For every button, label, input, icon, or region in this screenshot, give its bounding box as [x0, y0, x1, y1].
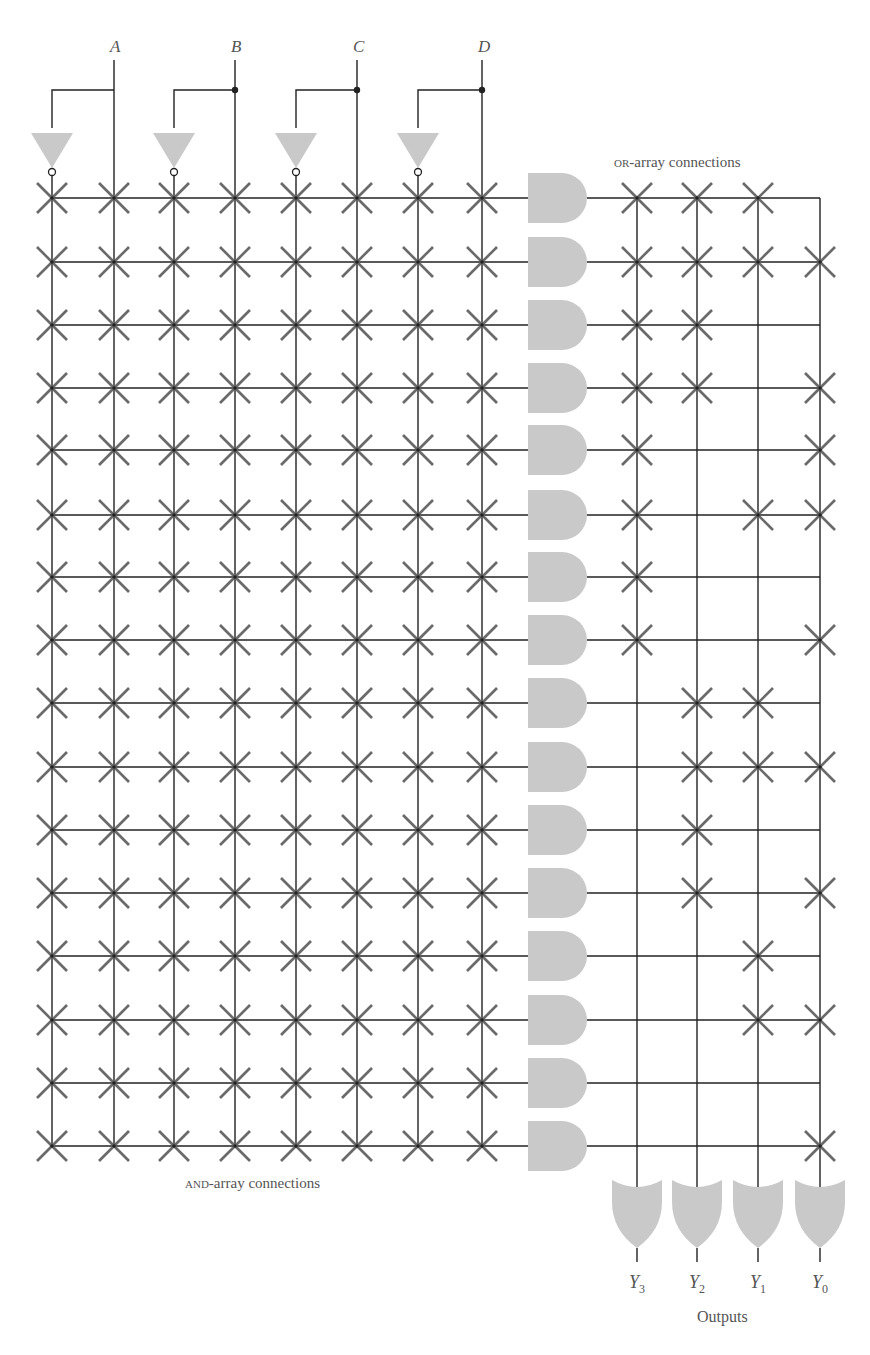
and-gate-icon: [528, 931, 587, 981]
inverter-icon: [275, 133, 317, 168]
and-gate-icon: [528, 237, 587, 287]
and-gate-icon: [528, 995, 587, 1045]
output-label: Y3: [629, 1272, 645, 1296]
and-gate-icon: [528, 678, 587, 728]
and-gate-icon: [528, 363, 587, 413]
or-array-label: OR-array connections: [614, 154, 741, 170]
output-y1: Y1: [733, 1180, 783, 1296]
outputs-label: Outputs: [697, 1308, 748, 1326]
output-label: Y0: [812, 1272, 828, 1296]
input-label-b: B: [231, 37, 242, 56]
input-label-c: C: [353, 37, 365, 56]
and-gate-icon: [528, 552, 587, 602]
junction-dot: [232, 87, 238, 93]
and-gate-icon: [528, 300, 587, 350]
or-gate-icon: [795, 1180, 845, 1248]
and-gate-icon: [528, 868, 587, 918]
pla-diagram: ABCD Y3Y2Y1Y0 OR-array connections AND-a…: [0, 0, 870, 1355]
or-gates: Y3Y2Y1Y0: [612, 1180, 845, 1296]
or-gate-icon: [612, 1180, 662, 1248]
output-y2: Y2: [672, 1180, 722, 1296]
and-gate-icon: [528, 1058, 587, 1108]
and-array-grid: [37, 183, 528, 1161]
output-label: Y2: [689, 1272, 705, 1296]
and-gate-icon: [528, 425, 587, 475]
input-label-a: A: [109, 37, 121, 56]
or-array-grid: [622, 183, 835, 1195]
inversion-bubble: [293, 169, 300, 176]
output-y0: Y0: [795, 1180, 845, 1296]
inverter-icon: [397, 133, 439, 168]
or-gate-icon: [733, 1180, 783, 1248]
and-gate-icon: [528, 615, 587, 665]
input-label-d: D: [477, 37, 491, 56]
and-gate-icon: [528, 173, 587, 223]
inversion-bubble: [171, 169, 178, 176]
and-gates: [528, 173, 820, 1171]
inverter-icon: [153, 133, 195, 168]
output-label: Y1: [750, 1272, 766, 1296]
inversion-bubble: [49, 169, 56, 176]
and-gate-icon: [528, 742, 587, 792]
and-gate-icon: [528, 490, 587, 540]
and-gate-icon: [528, 805, 587, 855]
inverter-icon: [31, 133, 73, 168]
and-array-label: AND-array connections: [185, 1175, 320, 1191]
and-gate-icon: [528, 1121, 587, 1171]
or-gate-icon: [672, 1180, 722, 1248]
inversion-bubble: [415, 169, 422, 176]
junction-dot: [479, 87, 485, 93]
junction-dot: [354, 87, 360, 93]
output-y3: Y3: [612, 1180, 662, 1296]
